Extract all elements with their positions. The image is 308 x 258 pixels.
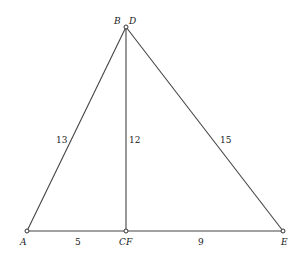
length-label-bc: 12 xyxy=(129,135,140,145)
vertex-e xyxy=(281,229,285,233)
label-point-d: D xyxy=(128,16,136,26)
label-point-e: E xyxy=(280,237,288,247)
vertex-bd xyxy=(124,25,128,29)
segment-de xyxy=(126,27,283,231)
length-label-de: 15 xyxy=(220,135,232,145)
label-point-b: B xyxy=(113,16,121,26)
segment-ab xyxy=(27,27,126,231)
label-point-a: A xyxy=(19,237,27,247)
triangle-diagram: B D A CF E 13 12 15 5 9 xyxy=(0,0,308,258)
length-label-ac: 5 xyxy=(75,237,81,247)
length-label-fe: 9 xyxy=(198,237,204,247)
length-label-ab: 13 xyxy=(56,135,68,145)
diagram-svg: B D A CF E 13 12 15 5 9 xyxy=(0,0,308,258)
vertex-cf xyxy=(124,229,128,233)
vertex-a xyxy=(25,229,29,233)
label-point-cf: CF xyxy=(119,237,133,247)
